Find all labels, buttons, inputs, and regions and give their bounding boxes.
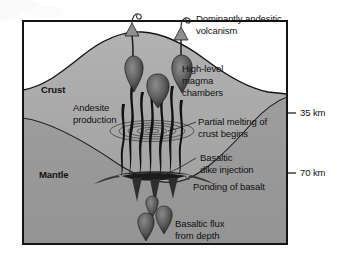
geologic-cross-section-figure: Crust Mantle Dominantly andesitic volcan… bbox=[0, 0, 343, 266]
annotation-magma-chambers-line3: chambers bbox=[182, 87, 223, 99]
depth-scale-label-70: 70 km bbox=[300, 167, 325, 179]
annotation-dike-injection-line1: Basaltic bbox=[200, 152, 232, 164]
annotation-ponding-of-basalt: Ponding of basalt bbox=[193, 181, 265, 193]
annotation-andesite-production-line2: production bbox=[73, 114, 116, 126]
annotation-basaltic-flux-line1: Basaltic flux bbox=[175, 218, 224, 230]
annotation-dike-injection-line2: dike injection bbox=[200, 164, 254, 176]
depth-scale-ticks bbox=[288, 113, 296, 173]
annotation-andesite-production-line1: Andesite bbox=[73, 102, 109, 114]
annotation-partial-melting-line1: Partial melting of bbox=[198, 116, 267, 128]
cross-section-diagram bbox=[0, 0, 343, 266]
depth-scale-label-35: 35 km bbox=[300, 107, 325, 119]
annotation-magma-chambers-line2: magma bbox=[182, 75, 213, 87]
annotation-basaltic-flux-line2: from depth bbox=[175, 230, 219, 242]
paper-texture bbox=[0, 0, 64, 21]
annotation-partial-melting-line2: crust begins bbox=[198, 128, 248, 140]
region-label-crust: Crust bbox=[41, 84, 65, 96]
annotation-magma-chambers-line1: High-level bbox=[182, 63, 223, 75]
annotation-dominant-volcanism-line1: Dominantly andesitic bbox=[196, 13, 282, 25]
region-label-mantle: Mantle bbox=[39, 169, 69, 181]
annotation-dominant-volcanism-line2: volcanism bbox=[196, 25, 237, 37]
